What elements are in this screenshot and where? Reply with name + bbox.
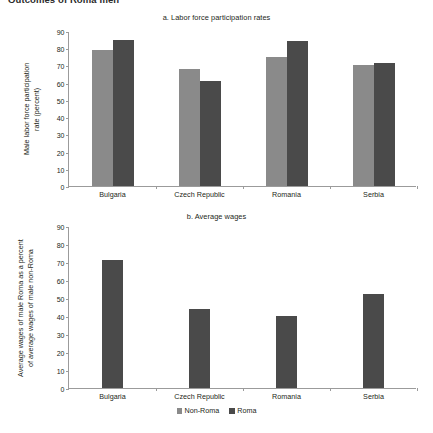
x-axis-tick [330, 186, 331, 189]
legend-item: Non-Roma [177, 406, 220, 415]
y-axis-tick [66, 135, 69, 136]
y-axis-tick [66, 245, 69, 246]
y-axis-tick-label: 20 [57, 149, 65, 156]
y-axis-tick [66, 84, 69, 85]
y-axis-tick [66, 118, 69, 119]
y-axis-tick [66, 153, 69, 154]
panel-b-axis-title: Average wages of male Roma as a percent … [16, 228, 46, 388]
y-axis-tick-label: 50 [57, 97, 65, 104]
y-axis-tick-label: 70 [57, 63, 65, 70]
y-axis-tick-label: 80 [57, 242, 65, 249]
bar-roma [374, 63, 395, 186]
legend-label: Non-Roma [185, 406, 220, 415]
y-axis-tick [66, 281, 69, 282]
bar-non-roma [266, 57, 287, 186]
y-axis-tick-label: 90 [57, 224, 65, 231]
panel-a-axis-title: Male labor force participation rate (per… [22, 33, 46, 185]
y-axis-tick-label: 20 [57, 350, 65, 357]
x-axis-label: Romania [272, 190, 301, 199]
y-axis-tick [66, 353, 69, 354]
y-axis-tick-label: 40 [57, 314, 65, 321]
y-axis-tick-label: 0 [61, 184, 65, 191]
x-axis-tick [243, 388, 244, 391]
panel-a-title: a. Labor force participation rates [0, 13, 433, 22]
y-axis-tick-label: 80 [57, 46, 65, 53]
panel-b: b. Average wages Average wages of male R… [0, 206, 433, 433]
y-axis-tick [66, 389, 69, 390]
y-axis-tick [66, 227, 69, 228]
bar-non-roma [179, 69, 200, 186]
y-axis-tick [66, 101, 69, 102]
x-axis-end-tick [417, 388, 418, 391]
y-axis-tick-label: 50 [57, 296, 65, 303]
y-axis-tick-label: 60 [57, 278, 65, 285]
y-axis-tick [66, 263, 69, 264]
y-axis-tick-label: 30 [57, 332, 65, 339]
x-axis-label: Serbia [363, 392, 384, 401]
bar-roma [189, 309, 210, 388]
legend-item: Roma [229, 406, 256, 415]
y-axis-tick-label: 10 [57, 368, 65, 375]
bar-non-roma [353, 65, 374, 186]
y-axis-tick [66, 32, 69, 33]
y-axis-tick [66, 187, 69, 188]
x-axis-label: Serbia [363, 190, 384, 199]
x-axis-label: Romania [272, 392, 301, 401]
x-axis-label: Bulgaria [99, 190, 125, 199]
x-axis-label: Czech Republic [174, 392, 224, 401]
y-axis-tick [66, 170, 69, 171]
y-axis-tick [66, 317, 69, 318]
legend-swatch-icon [177, 408, 183, 414]
y-axis-tick-label: 40 [57, 115, 65, 122]
bar-roma [287, 41, 308, 186]
bar-non-roma [92, 50, 113, 186]
x-axis-label: Czech Republic [174, 190, 224, 199]
y-axis-tick [66, 66, 69, 67]
y-axis-tick-label: 90 [57, 29, 65, 36]
panel-b-title: b. Average wages [0, 212, 433, 221]
bar-roma [276, 316, 297, 388]
panel-a-plot-area: 0102030405060708090BulgariaCzech Republi… [68, 32, 416, 187]
x-axis-tick [243, 186, 244, 189]
y-axis-tick [66, 335, 69, 336]
x-axis-end-tick [417, 186, 418, 189]
y-axis-tick-label: 10 [57, 166, 65, 173]
y-axis-tick [66, 49, 69, 50]
legend-swatch-icon [229, 408, 235, 414]
panel-a: a. Labor force participation rates Male … [0, 0, 433, 206]
chart-legend: Non-RomaRoma [0, 406, 433, 415]
y-axis-tick-label: 30 [57, 132, 65, 139]
bar-roma [113, 40, 134, 186]
y-axis-tick-label: 0 [61, 386, 65, 393]
bar-roma [102, 260, 123, 388]
figure-page: Outcomes of Roma men a. Labor force part… [0, 0, 433, 433]
legend-label: Roma [237, 406, 256, 415]
x-axis-tick [156, 388, 157, 391]
bar-roma [363, 294, 384, 388]
panel-b-plot-area: 0102030405060708090BulgariaCzech Republi… [68, 227, 416, 389]
y-axis-tick-label: 70 [57, 260, 65, 267]
x-axis-tick [330, 388, 331, 391]
x-axis-label: Bulgaria [99, 392, 125, 401]
x-axis-tick [156, 186, 157, 189]
y-axis-tick-label: 60 [57, 80, 65, 87]
y-axis-tick [66, 371, 69, 372]
y-axis-tick [66, 299, 69, 300]
bar-roma [200, 81, 221, 186]
